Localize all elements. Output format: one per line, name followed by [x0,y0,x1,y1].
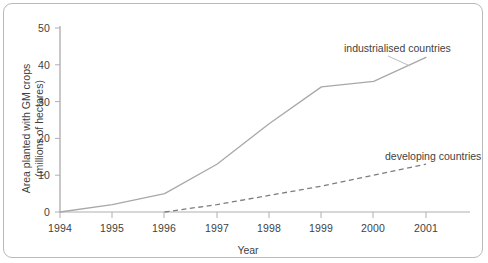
data-series [60,56,426,212]
series-line-industrialised [60,57,426,212]
y-tick-label-20: 20 [28,132,50,144]
axes [55,26,470,218]
y-tick-label-10: 10 [28,169,50,181]
y-tick-label-40: 40 [28,59,50,71]
x-tick-label-1995: 1995 [88,222,136,234]
y-tick-label-50: 50 [28,22,50,34]
x-tick-label-2001: 2001 [402,222,450,234]
series-label-developing: developing countries [385,150,481,162]
annotation-leader-industrialised [388,56,410,66]
x-tick-label-1997: 1997 [193,222,241,234]
x-tick-label-1998: 1998 [245,222,293,234]
y-tick-label-0: 0 [28,206,50,218]
y-axis-ticks [55,28,60,212]
series-label-industrialised: industrialised countries [344,42,451,54]
x-tick-label-2000: 2000 [349,222,397,234]
y-tick-label-30: 30 [28,96,50,108]
x-tick-label-1999: 1999 [297,222,345,234]
x-tick-label-1996: 1996 [140,222,188,234]
x-tick-label-1994: 1994 [36,222,84,234]
x-axis-ticks [60,212,426,218]
